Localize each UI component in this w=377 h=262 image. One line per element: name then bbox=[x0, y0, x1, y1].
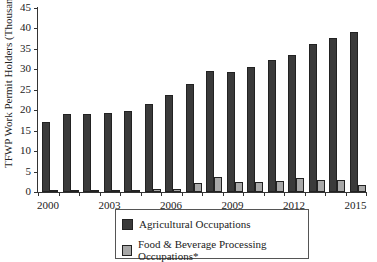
x-tick-mark bbox=[346, 192, 347, 196]
bar-food-beverage bbox=[296, 178, 304, 192]
x-tick-mark bbox=[264, 192, 265, 196]
y-tick-mark bbox=[34, 8, 38, 9]
x-tick-mark bbox=[79, 192, 80, 196]
x-tick-mark bbox=[120, 192, 121, 196]
bar-food-beverage bbox=[132, 190, 140, 192]
bar-food-beverage bbox=[255, 182, 263, 192]
y-tick-mark bbox=[34, 131, 38, 132]
bar-food-beverage bbox=[337, 180, 345, 192]
legend-swatch-icon bbox=[122, 245, 132, 256]
x-tick-mark bbox=[305, 192, 306, 196]
x-tick-mark bbox=[243, 192, 244, 196]
x-tick-mark bbox=[223, 192, 224, 196]
x-tick-mark bbox=[202, 192, 203, 196]
x-tick-mark bbox=[182, 192, 183, 196]
bar-agricultural bbox=[63, 114, 71, 192]
bar-food-beverage bbox=[276, 181, 284, 192]
bar-food-beverage bbox=[358, 185, 366, 192]
legend-item-food-beverage: Food & Beverage Processing Occupations* bbox=[122, 238, 308, 262]
bar-food-beverage bbox=[71, 190, 79, 192]
bar-agricultural bbox=[227, 72, 235, 192]
bar-food-beverage bbox=[50, 190, 58, 192]
y-tick-label: 10 bbox=[17, 145, 31, 156]
legend-item-agricultural: Agricultural Occupations bbox=[122, 218, 251, 230]
bar-food-beverage bbox=[112, 190, 120, 192]
bar-agricultural bbox=[247, 67, 255, 192]
bar-food-beverage bbox=[91, 190, 99, 192]
bar-agricultural bbox=[42, 122, 50, 192]
bar-food-beverage bbox=[173, 189, 181, 192]
bar-food-beverage bbox=[235, 182, 243, 192]
y-tick-mark bbox=[34, 69, 38, 70]
bar-agricultural bbox=[186, 84, 194, 192]
bar-agricultural bbox=[309, 44, 317, 192]
bar-agricultural bbox=[206, 71, 214, 192]
y-tick-label: 40 bbox=[17, 22, 31, 33]
y-tick-mark bbox=[34, 49, 38, 50]
y-tick-mark bbox=[34, 28, 38, 29]
bar-agricultural bbox=[124, 111, 132, 192]
x-tick-mark bbox=[284, 192, 285, 196]
x-tick-mark bbox=[38, 192, 39, 196]
y-tick-mark bbox=[34, 151, 38, 152]
x-tick-label: 2000 bbox=[28, 199, 68, 211]
y-tick-label: 35 bbox=[17, 43, 31, 54]
x-tick-label: 2015 bbox=[336, 199, 376, 211]
bar-agricultural bbox=[329, 38, 337, 192]
legend-label: Food & Beverage Processing Occupations* bbox=[138, 238, 308, 262]
y-tick-label: 0 bbox=[17, 186, 31, 197]
x-tick-mark bbox=[161, 192, 162, 196]
bar-agricultural bbox=[350, 32, 358, 192]
bar-agricultural bbox=[288, 55, 296, 192]
y-tick-mark bbox=[34, 172, 38, 173]
x-tick-mark bbox=[59, 192, 60, 196]
x-tick-mark bbox=[366, 192, 367, 196]
x-tick-mark bbox=[141, 192, 142, 196]
legend-swatch-icon bbox=[122, 219, 133, 230]
legend: Agricultural Occupations Food & Beverage… bbox=[115, 209, 309, 259]
bar-agricultural bbox=[83, 114, 91, 192]
y-tick-label: 5 bbox=[17, 166, 31, 177]
y-tick-label: 45 bbox=[17, 2, 31, 13]
legend-label: Agricultural Occupations bbox=[139, 218, 251, 230]
bar-food-beverage bbox=[153, 189, 161, 192]
bar-food-beverage bbox=[317, 180, 325, 192]
bar-agricultural bbox=[104, 113, 112, 192]
y-tick-label: 25 bbox=[17, 84, 31, 95]
y-tick-mark bbox=[34, 110, 38, 111]
bar-agricultural bbox=[268, 60, 276, 192]
y-tick-mark bbox=[34, 90, 38, 91]
y-tick-label: 15 bbox=[17, 125, 31, 136]
y-tick-label: 20 bbox=[17, 104, 31, 115]
bar-agricultural bbox=[165, 95, 173, 192]
bar-agricultural bbox=[145, 104, 153, 192]
x-tick-mark bbox=[100, 192, 101, 196]
bar-food-beverage bbox=[194, 183, 202, 192]
y-axis-label: TFWP Work Permit Holders (Thousands) bbox=[2, 28, 14, 168]
bar-food-beverage bbox=[214, 177, 222, 192]
x-tick-mark bbox=[325, 192, 326, 196]
y-tick-label: 30 bbox=[17, 63, 31, 74]
y-axis bbox=[37, 7, 38, 193]
